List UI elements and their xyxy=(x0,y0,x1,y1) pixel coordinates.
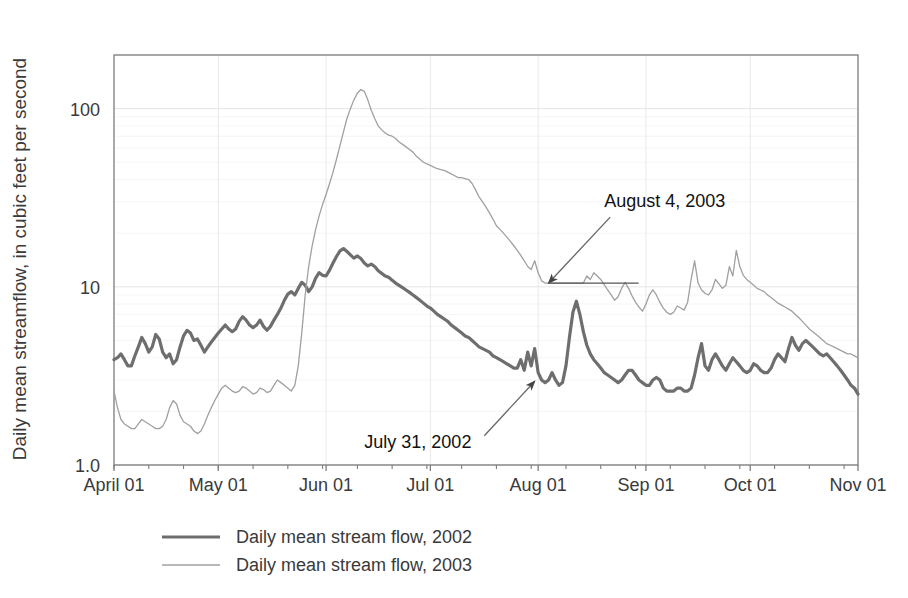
x-tick-label: Aug 01 xyxy=(510,475,567,495)
annotation-july-31-2002-leader xyxy=(484,381,534,435)
y-axis-title: Daily mean streamflow, in cubic feet per… xyxy=(9,58,30,460)
legend-label-2: Daily mean stream flow, 2003 xyxy=(236,555,472,575)
series-line-1 xyxy=(114,249,858,395)
annotation-july-31-2002-text: July 31, 2002 xyxy=(364,432,471,452)
x-tick-label: Jun 01 xyxy=(299,475,353,495)
annotations-layer: August 4, 2003July 31, 2002 xyxy=(364,191,725,452)
x-tick-label: Nov 01 xyxy=(829,475,886,495)
series-layer xyxy=(114,90,858,434)
x-tick-label: Jul 01 xyxy=(406,475,454,495)
chart-canvas: April 01May 01Jun 01Jul 01Aug 01Sep 01Oc… xyxy=(0,0,908,598)
y-tick-label: 1.0 xyxy=(75,456,100,476)
y-axis: 1.010100 xyxy=(70,100,100,476)
streamflow-figure: April 01May 01Jun 01Jul 01Aug 01Sep 01Oc… xyxy=(0,0,908,598)
legend-label-1: Daily mean stream flow, 2002 xyxy=(236,527,472,547)
y-tick-label: 10 xyxy=(80,278,100,298)
series-line-2 xyxy=(114,90,858,434)
annotation-august-4-2003: August 4, 2003 xyxy=(549,191,726,283)
annotation-august-4-2003-text: August 4, 2003 xyxy=(604,191,725,211)
x-tick-label: April 01 xyxy=(83,475,144,495)
x-tick-label: May 01 xyxy=(189,475,248,495)
annotation-july-31-2002: July 31, 2002 xyxy=(364,381,534,451)
plot-grid xyxy=(114,55,858,465)
annotation-august-4-2003-leader xyxy=(549,217,611,283)
x-axis: April 01May 01Jun 01Jul 01Aug 01Sep 01Oc… xyxy=(83,465,886,495)
legend: Daily mean stream flow, 2002Daily mean s… xyxy=(162,527,472,575)
y-tick-label: 100 xyxy=(70,100,100,120)
x-tick-label: Oct 01 xyxy=(724,475,777,495)
x-tick-label: Sep 01 xyxy=(617,475,674,495)
